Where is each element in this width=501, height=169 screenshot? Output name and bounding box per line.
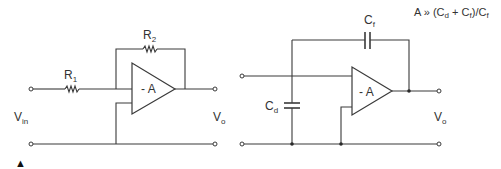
noninverting-wire-right [341,107,352,144]
cd-label: Cd [265,99,278,115]
output-terminal-icon [213,87,217,91]
cd-ground-junction-dot [290,142,294,146]
resistor-r1-icon [65,86,79,92]
r2-label: R2 [143,28,157,44]
output-ground-terminal-right-icon [437,142,441,146]
vin-label: Vin [14,110,28,126]
gain-condition-formula: A » (Cd + Cf)/Cf [414,6,489,20]
circuit-diagram: R1 R2 - A Vin Vo ▲ [0,0,501,169]
cf-label: Cf [364,13,376,29]
output-junction-dot [407,89,411,93]
input-ground-terminal-right-icon [240,142,244,146]
output-ground-terminal-icon [213,142,217,146]
input-ground-terminal-icon [29,142,33,146]
vo-label-right: Vo [434,110,447,126]
opamp-gain-label: - A [141,82,156,96]
figure-marker-icon: ▲ [15,157,26,169]
input-terminal-icon [29,87,33,91]
noninverting-wire [116,103,132,144]
output-terminal-right-icon [437,89,441,93]
opamp-gain-label-right: - A [359,85,374,99]
vo-label-left: Vo [213,110,226,126]
resistor-r2-icon [143,46,157,52]
inverting-amplifier-circuit: R1 R2 - A Vin Vo [14,28,226,146]
r1-label: R1 [64,68,78,84]
charge-amplifier-circuit: Cf Cd - A Vo A » (Cd + Cf)/Cf [240,6,489,146]
input-terminal-right-icon [240,74,244,78]
noninverting-ground-junction-dot [339,142,343,146]
